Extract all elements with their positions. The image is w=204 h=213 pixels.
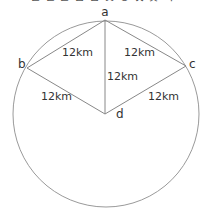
edge-label-b-d: 12km [41,90,72,103]
edge-a-c [105,20,186,66]
point-label-c: c [189,57,196,71]
circle-diagram: ㄴ ㄷ ㄹ ㅁ ㅂ ㅅ ㅇ ㅈ ㅊ ㅋ a b c d 12km 12km 12… [0,0,204,213]
point-label-a: a [101,5,108,19]
outer-circle [13,21,199,207]
point-label-b: b [18,57,26,71]
edge-label-a-c: 12km [124,46,155,59]
edge-a-b [27,20,105,68]
edge-label-c-d: 12km [148,90,179,103]
edge-label-a-b: 12km [62,46,93,59]
edge-label-a-d: 12km [107,70,138,83]
point-label-d: d [116,107,124,121]
